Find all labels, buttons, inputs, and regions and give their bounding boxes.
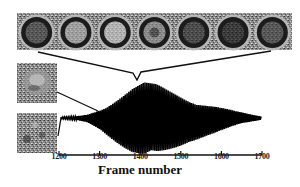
signal-waveform <box>61 83 261 154</box>
strip-frame <box>176 15 212 51</box>
lower-thumbnail <box>17 113 57 153</box>
strip-frame <box>254 15 290 51</box>
strip-frame <box>19 15 55 51</box>
x-axis <box>59 151 262 155</box>
callout-line-lower-thumb <box>58 118 76 136</box>
x-tick-label: 1400 <box>133 152 148 161</box>
top-image-strip <box>17 13 292 51</box>
callout-line-upper-thumb <box>57 92 98 111</box>
callout-line-strip <box>38 51 271 80</box>
strip-frame <box>58 15 94 51</box>
x-tick-label: 1600 <box>214 152 229 161</box>
upper-thumbnail <box>17 63 57 103</box>
x-axis-label: Frame number <box>98 162 182 178</box>
x-tick-label: 1300 <box>92 152 107 161</box>
strip-frame <box>215 15 251 51</box>
x-tick-label: 1700 <box>255 152 270 161</box>
x-tick-label: 1200 <box>52 152 67 161</box>
strip-frame <box>97 15 133 51</box>
x-tick-label: 1500 <box>173 152 188 161</box>
strip-frame <box>137 15 173 51</box>
